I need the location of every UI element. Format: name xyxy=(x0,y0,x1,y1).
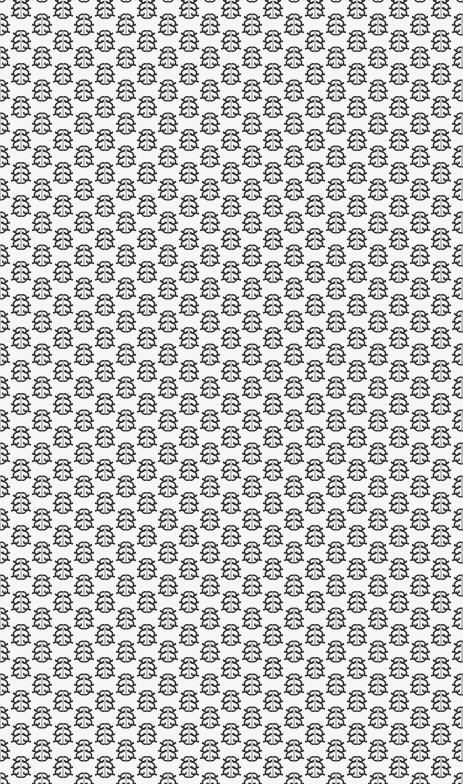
pattern-canvas xyxy=(0,0,463,784)
damask-pattern xyxy=(0,0,463,784)
